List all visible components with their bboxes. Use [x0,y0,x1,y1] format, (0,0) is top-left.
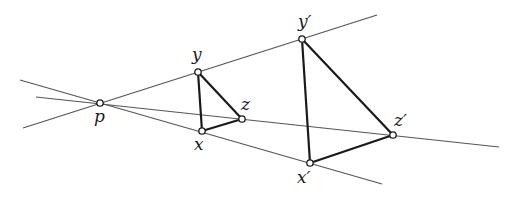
perspective-diagram: p y x z y′ x′ z′ [0,0,521,198]
label-x-prime: x′ [297,167,311,187]
point-z [239,116,245,122]
point-y-prime [299,36,305,42]
edge-y'-z' [302,39,393,135]
edge-x'-y' [302,39,310,163]
label-y-prime: y′ [297,11,312,31]
edge-z-x [202,119,242,131]
label-p: p [94,106,105,126]
edge-x-y [198,72,202,131]
point-y [195,69,201,75]
label-z: z [240,94,251,114]
label-x: x [194,134,204,154]
label-z-prime: z′ [393,110,407,130]
large-triangle [302,39,393,163]
projection-rays [20,15,499,184]
point-z-prime [390,132,396,138]
small-triangle [198,72,242,131]
label-y: y [191,44,202,64]
edge-y-z [198,72,242,119]
edge-z'-x' [310,135,393,163]
point-x-prime [307,160,313,166]
